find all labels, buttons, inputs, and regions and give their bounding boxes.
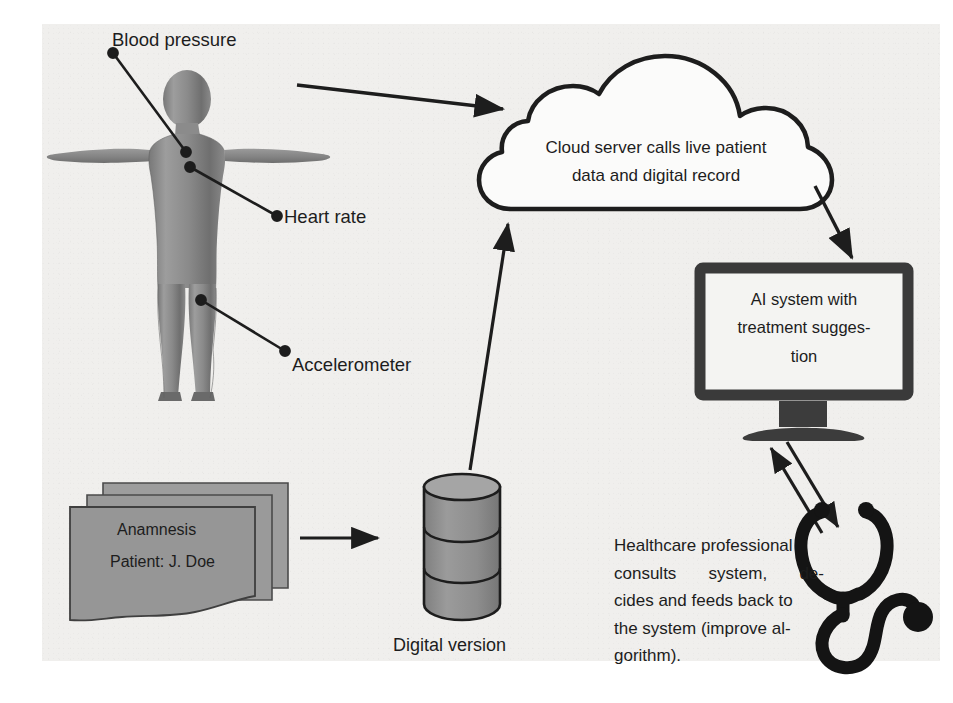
label-accelerometer: Accelerometer <box>292 353 411 377</box>
healthcare-line-5: gorithm). <box>614 642 824 670</box>
healthcare-line-3: cides and feeds back to <box>614 587 824 615</box>
label-blood-pressure: Blood pressure <box>112 28 236 52</box>
document-patient: Patient: J. Doe <box>110 551 215 572</box>
monitor-label-line1: AI system with <box>710 285 898 313</box>
monitor-label-line3: tion <box>710 342 898 370</box>
healthcare-line-2-word-1: consults <box>614 560 676 588</box>
healthcare-line-2-word-2: system, <box>709 560 768 588</box>
healthcare-line-2: consults system, de- <box>614 560 824 588</box>
healthcare-line-4: the system (improve al- <box>614 615 824 643</box>
cloud-label-line2: data and digital record <box>520 162 792 190</box>
cloud-label-line1: Cloud server calls live patient <box>520 134 792 162</box>
healthcare-line-2-word-3: de- <box>799 560 824 588</box>
diagram-canvas: Blood pressure Heart rate Accelerometer … <box>0 0 953 703</box>
healthcare-paragraph: Healthcare professional consults system,… <box>614 532 824 670</box>
healthcare-line-1: Healthcare professional <box>614 532 824 560</box>
cloud-label: Cloud server calls live patient data and… <box>520 134 792 189</box>
document-title: Anamnesis <box>117 519 196 540</box>
diagram-text-layer: Blood pressure Heart rate Accelerometer … <box>0 0 953 703</box>
label-heart-rate: Heart rate <box>284 205 366 229</box>
database-caption: Digital version <box>393 634 506 658</box>
monitor-label-line2: treatment sugges- <box>710 313 898 341</box>
monitor-label: AI system with treatment sugges- tion <box>710 285 898 370</box>
